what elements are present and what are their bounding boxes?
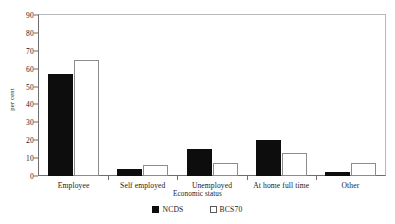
legend-item-bcs70: BCS70 [210,205,243,214]
bar-ncds [187,149,212,176]
bar-bcs70 [351,163,376,176]
bar-ncds [48,74,73,176]
y-axis: per cent 0102030405060708090 [0,0,38,177]
chart-legend: NCDS BCS70 [0,205,395,214]
bar-ncds [325,172,350,176]
y-axis-tick-mark [34,68,38,69]
legend-item-ncds: NCDS [152,205,183,214]
y-axis-tick-label: 50 [26,82,34,91]
bar-group [117,15,168,176]
y-axis-tick-label: 10 [26,154,34,163]
y-axis-tick-label: 70 [26,46,34,55]
x-axis-title: Economic status [0,190,395,198]
y-axis-tick-mark [34,140,38,141]
x-axis-tick-mark [247,176,248,180]
x-axis-tick-label: Employee [58,181,90,190]
y-axis-tick-mark [34,122,38,123]
bar-group [325,15,376,176]
bar-bcs70 [74,60,99,176]
legend-label-ncds: NCDS [162,205,183,214]
bar-bcs70 [282,153,307,176]
y-axis-tick-label: 60 [26,64,34,73]
x-axis-tick-mark [316,176,317,180]
y-axis-tick-mark [34,15,38,16]
y-axis-title: per cent [8,70,15,130]
y-axis-tick-label: 40 [26,100,34,109]
x-axis-tick-label: Other [341,181,359,190]
bar-ncds [117,169,142,176]
bar-ncds [256,140,281,176]
x-axis-tick-mark [177,176,178,180]
y-axis-tick-mark [34,104,38,105]
y-axis-tick-label: 20 [26,136,34,145]
bar-group [187,15,238,176]
bar-chart: per cent 0102030405060708090 EmployeeSel… [0,0,395,224]
legend-label-bcs70: BCS70 [220,205,243,214]
bar-bcs70 [213,163,238,176]
y-axis-tick-label: 80 [26,28,34,37]
y-axis-tick-mark [34,158,38,159]
y-axis-tick-label: 90 [26,11,34,20]
bar-group [256,15,307,176]
y-axis-tick-mark [34,86,38,87]
y-axis-tick-mark [34,50,38,51]
x-axis-tick-label: Self employed [120,181,165,190]
bar-bcs70 [143,165,168,176]
filled-square-icon [152,206,159,213]
x-axis-tick-label: At home full time [253,181,309,190]
bars-layer [39,15,385,176]
x-axis-tick-mark [108,176,109,180]
y-axis-tick-mark [34,32,38,33]
y-axis-tick-mark [34,176,38,177]
y-axis-tick-label: 30 [26,118,34,127]
x-axis-tick-label: Unemployed [192,181,232,190]
hollow-square-icon [210,206,217,213]
bar-group [48,15,99,176]
